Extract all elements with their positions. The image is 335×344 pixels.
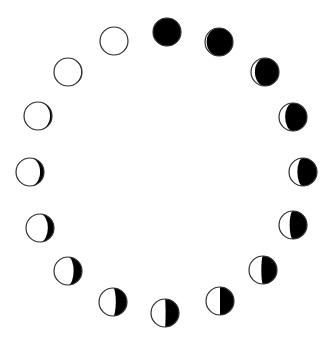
- moon-phase-icon-waxing-crescent-1: [205, 28, 233, 56]
- moon-phase-icon-waxing-crescent-4: [289, 158, 317, 186]
- moon-phase-icon-waxing-5: [279, 211, 307, 239]
- moon-phase-ring: [0, 0, 335, 344]
- moon-phase-icon-waxing-crescent-2: [251, 58, 279, 86]
- moon-phase-icon-waxing-6: [249, 256, 277, 284]
- moon-phase-icon-full-moon: [100, 27, 128, 55]
- moon-phase-icon-quarter-2: [151, 299, 179, 327]
- moon-phase-icon-new-moon: [153, 18, 181, 46]
- moon-phase-icon-waxing-crescent-3: [279, 103, 307, 131]
- moon-phase-icon-gibbous-4: [16, 158, 44, 186]
- moon-phase-icon-quarter-1: [206, 287, 234, 315]
- moon-phase-icon-gibbous-2: [54, 257, 82, 285]
- moon-phase-icon-gibbous-6: [54, 58, 82, 86]
- moon-phase-diagram: [0, 0, 335, 344]
- moon-phase-icon-gibbous-1: [99, 288, 127, 316]
- moon-phase-icon-gibbous-3: [26, 214, 54, 242]
- moon-phase-icon-gibbous-5: [24, 102, 52, 130]
